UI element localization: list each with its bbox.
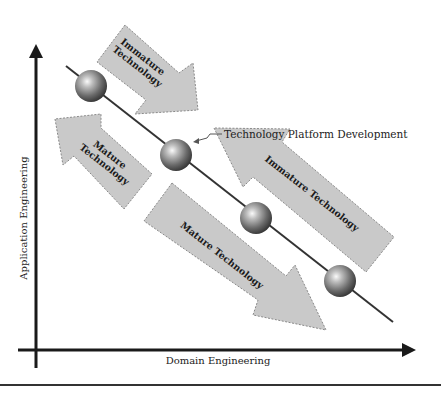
node-sphere-1 xyxy=(75,70,107,102)
y-axis-label: Application Engineering xyxy=(18,156,29,281)
node-sphere-4 xyxy=(324,265,356,297)
mature-technology-arrow-small: Mature Technology xyxy=(55,114,152,209)
y-axis: Application Engineering xyxy=(18,44,43,368)
x-axis-arrowhead-icon xyxy=(402,343,416,357)
node-sphere-2 xyxy=(160,139,192,171)
x-axis-label: Domain Engineering xyxy=(166,355,271,366)
node-sphere-3 xyxy=(240,202,272,234)
x-axis: Domain Engineering xyxy=(18,343,416,366)
callout-label: Technology Platform Development xyxy=(224,128,408,140)
immature-technology-arrow-small: Immature Technology xyxy=(97,25,198,114)
diagram-canvas: Immature Technology Mature Technology Im… xyxy=(0,0,443,393)
y-axis-arrowhead-icon xyxy=(29,44,43,58)
callout-arrowhead-icon xyxy=(193,138,199,144)
